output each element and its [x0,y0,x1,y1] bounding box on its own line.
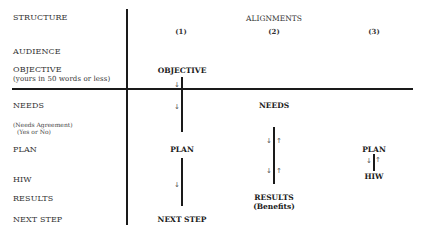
row-label-results: RESULTS [13,194,53,203]
column-number-1: (1) [175,28,187,36]
col2-node-benefits: (Benefits) [253,202,295,211]
structure-heading: STRUCTURE [13,13,68,22]
column-number-2: (2) [268,28,280,36]
col2-arrow-up-icon: ↑ [276,138,282,145]
col1-connector-upper [181,77,183,132]
col3-arrow-down-icon: ↓ [366,158,372,165]
row-label-objective: OBJECTIVE [13,65,62,74]
col2-arrow-down-icon: ↓ [266,168,272,175]
row-sublabel-objective: (yours in 50 words or less) [13,75,110,84]
col2-connector [273,127,275,184]
col2-arrow-up-icon: ↑ [276,168,282,175]
row-label-next-step: NEXT STEP [13,215,62,224]
row-label-needs: NEEDS [13,101,44,110]
row-label-plan: PLAN [13,145,37,154]
col1-arrow-down-icon: ↓ [174,182,180,189]
col2-arrow-down-icon: ↓ [266,138,272,145]
col1-arrow-down-icon: ↓ [174,82,180,89]
col3-node-hiw: HIW [364,172,383,181]
row-sublabel-needs-agreement: (Yes or No) [17,128,51,135]
row-label-needs-agreement: (Needs Agreement) [13,121,73,128]
col3-arrow-up-icon: ↑ [375,157,381,164]
row-label-hiw: HIW [13,175,32,184]
col2-node-results: RESULTS [254,193,294,202]
col1-node-objective: OBJECTIVE [158,66,207,75]
col1-arrow-down-icon: ↓ [174,104,180,111]
alignments-heading: ALIGNMENTS [246,14,302,23]
objective-divider-horizontal [12,88,413,90]
structure-divider-vertical [126,9,128,225]
col2-node-needs: NEEDS [259,101,289,110]
col1-node-next-step: NEXT STEP [158,215,207,224]
column-number-3: (3) [368,28,380,36]
col1-node-plan: PLAN [170,145,194,154]
col1-connector-lower [181,158,183,206]
row-label-audience: AUDIENCE [13,47,61,56]
col3-node-plan: PLAN [362,145,386,154]
alignment-diagram: STRUCTURE AUDIENCE OBJECTIVE (yours in 5… [0,0,422,233]
